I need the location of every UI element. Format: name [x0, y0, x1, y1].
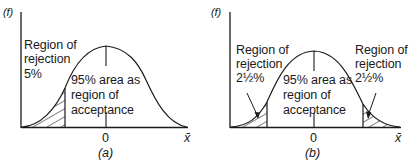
rejection-region-hatch — [20, 80, 66, 128]
rejection-label-a-line3: 5% — [24, 67, 42, 81]
y-axis-label-b: (f) — [211, 5, 221, 19]
acceptance-label-b-line1: 95% area as — [283, 73, 352, 87]
y-axis-label-a: (f) — [3, 5, 13, 19]
x-axis-label-a: x̄ — [184, 131, 190, 145]
left-rejection-label-line2: rejection — [236, 57, 282, 71]
acceptance-label-a-line2: region of — [71, 88, 119, 102]
x-axis-label-b: x̄ — [395, 131, 401, 145]
caption-b: (b) — [305, 146, 320, 160]
left-rejection-label-line1: Region of — [236, 43, 289, 57]
left-rejection-hatch — [229, 95, 268, 128]
acceptance-label-a-line1: 95% area as — [71, 73, 140, 87]
acceptance-label-b-line3: acceptance — [283, 103, 346, 117]
rejection-label-a-line1: Region of — [24, 38, 77, 52]
acceptance-label-b-line2: region of — [283, 88, 331, 102]
acceptance-label-a-line3: acceptance — [71, 103, 134, 117]
center-tick-b: 0 — [310, 131, 317, 145]
right-rejection-label-line2: rejection — [355, 57, 401, 71]
right-rejection-label-line1: Region of — [355, 43, 408, 57]
right-rejection-label-line3: 2½% — [355, 71, 383, 85]
center-tick-a: 0 — [102, 131, 109, 145]
caption-a: (a) — [98, 146, 113, 160]
left-rejection-label-line3: 2½% — [236, 71, 264, 85]
right-rejection-hatch — [362, 95, 402, 128]
rejection-label-a-line2: rejection — [24, 52, 70, 66]
